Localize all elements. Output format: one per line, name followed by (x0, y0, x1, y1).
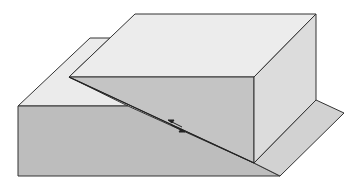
diagram-svg (0, 0, 359, 187)
fault-block-diagram (0, 0, 359, 187)
